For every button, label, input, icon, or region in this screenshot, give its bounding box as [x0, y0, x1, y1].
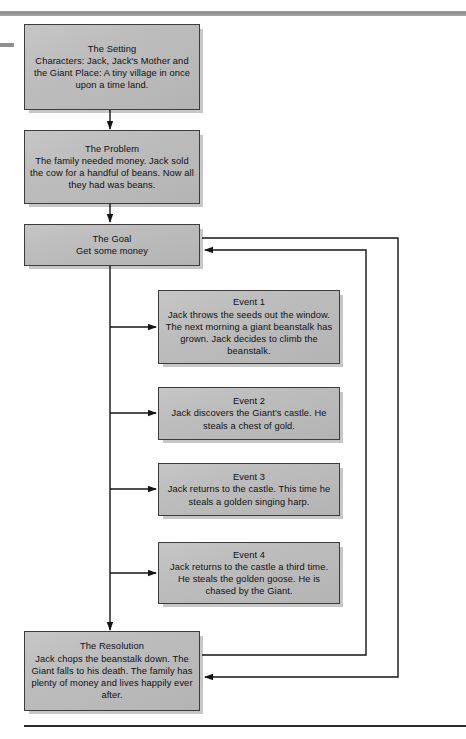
- box-event-4-title: Event 4: [233, 549, 265, 561]
- top-divider-rule: [0, 11, 466, 16]
- box-setting[interactable]: The Setting Characters: Jack, Jack's Mot…: [24, 24, 200, 110]
- story-map-page: The Setting Characters: Jack, Jack's Mot…: [0, 0, 466, 739]
- box-event-2-title: Event 2: [233, 395, 265, 407]
- box-resolution-body: Jack chops the beanstalk down. The Giant…: [30, 653, 194, 702]
- box-goal-title: The Goal: [93, 233, 132, 245]
- box-event-1-title: Event 1: [233, 296, 265, 308]
- box-goal[interactable]: The Goal Get some money: [24, 224, 200, 266]
- left-margin-dash: [0, 43, 14, 47]
- box-event-4-body: Jack returns to the castle a third time.…: [164, 561, 334, 598]
- box-problem[interactable]: The Problem The family needed money. Jac…: [24, 130, 200, 204]
- box-resolution[interactable]: The Resolution Jack chops the beanstalk …: [24, 631, 200, 711]
- box-event-4[interactable]: Event 4 Jack returns to the castle a thi…: [158, 542, 340, 604]
- box-event-3[interactable]: Event 3 Jack returns to the castle. This…: [158, 463, 340, 516]
- box-event-2-body: Jack discovers the Giant's castle. He st…: [164, 407, 334, 431]
- connector-layer: [0, 0, 466, 739]
- box-event-1[interactable]: Event 1 Jack throws the seeds out the wi…: [158, 290, 340, 364]
- box-event-1-body: Jack throws the seeds out the window. Th…: [164, 309, 334, 358]
- box-setting-title: The Setting: [88, 43, 137, 55]
- box-goal-body: Get some money: [76, 245, 148, 257]
- box-setting-body: Characters: Jack, Jack's Mother and the …: [30, 55, 194, 92]
- box-event-3-body: Jack returns to the castle. This time he…: [164, 483, 334, 507]
- bottom-divider-rule: [24, 725, 466, 727]
- box-event-3-title: Event 3: [233, 471, 265, 483]
- box-problem-title: The Problem: [85, 143, 139, 155]
- box-problem-body: The family needed money. Jack sold the c…: [30, 155, 194, 192]
- box-resolution-title: The Resolution: [80, 640, 144, 652]
- box-event-2[interactable]: Event 2 Jack discovers the Giant's castl…: [158, 387, 340, 440]
